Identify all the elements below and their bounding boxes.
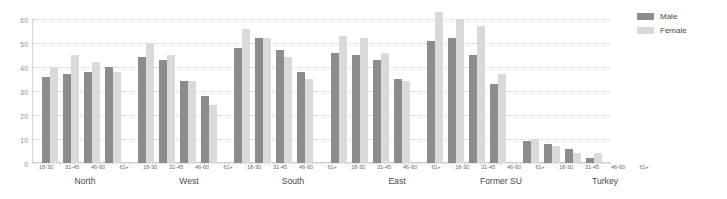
bar-female — [284, 57, 292, 163]
bar-female — [381, 53, 389, 163]
bar-male — [159, 60, 167, 163]
x-age-label-row: 18-3031-4546-6061+ — [553, 164, 657, 170]
x-age-label: 61+ — [530, 164, 551, 170]
bar-female — [477, 26, 485, 163]
age-group-bars — [352, 19, 368, 163]
bar-male — [276, 50, 284, 163]
x-age-label: 61+ — [426, 164, 447, 170]
bar-female — [92, 62, 100, 163]
age-group-bars — [394, 19, 410, 163]
x-age-label: 31-45 — [478, 164, 499, 170]
bar-female — [188, 81, 196, 163]
bar-female — [552, 146, 560, 163]
bar-male — [544, 144, 552, 163]
bar-female — [531, 139, 539, 163]
legend-swatch-icon — [637, 27, 654, 34]
age-group-bars — [490, 19, 506, 163]
bar-female — [305, 79, 313, 163]
bar-male — [84, 72, 92, 163]
x-age-label: 18-30 — [140, 164, 161, 170]
age-group-bars — [331, 19, 347, 163]
bar-male — [331, 53, 339, 163]
age-group-bars — [586, 19, 602, 163]
x-age-label: 18-30 — [244, 164, 265, 170]
bar-male — [234, 48, 242, 163]
bar-female — [339, 36, 347, 163]
bar-female — [573, 153, 581, 163]
age-group-bars — [523, 19, 539, 163]
x-region-label-group: 18-3031-4546-6061+South — [241, 164, 345, 199]
bar-female — [263, 38, 271, 163]
bar-male — [255, 38, 263, 163]
bar-male — [469, 55, 477, 163]
x-age-label: 61+ — [114, 164, 135, 170]
age-group-bars — [448, 19, 464, 163]
age-group-bars — [234, 19, 250, 163]
bar-female — [209, 105, 217, 163]
x-age-label: 61+ — [322, 164, 343, 170]
legend-label: Male — [660, 12, 677, 21]
legend-item-male[interactable]: Male — [637, 12, 687, 21]
region-group — [129, 19, 225, 163]
age-group-bars — [42, 19, 58, 163]
x-age-label: 46-60 — [504, 164, 525, 170]
x-age-label-row: 18-3031-4546-6061+ — [345, 164, 449, 170]
x-age-label: 31-45 — [62, 164, 83, 170]
x-age-label: 31-45 — [582, 164, 603, 170]
legend-item-female[interactable]: Female — [637, 26, 687, 35]
age-group-bars — [180, 19, 196, 163]
bar-female — [360, 38, 368, 163]
bar-male — [352, 55, 360, 163]
bar-male — [105, 67, 113, 163]
x-age-label-row: 18-3031-4546-6061+ — [137, 164, 241, 170]
bar-female — [242, 29, 250, 163]
x-region-name: East — [388, 176, 405, 186]
age-group-bars — [373, 19, 389, 163]
x-age-label: 31-45 — [374, 164, 395, 170]
y-tick-label: 20 — [20, 113, 28, 120]
bar-female — [435, 12, 443, 163]
x-age-label: 61+ — [634, 164, 655, 170]
age-group-bars — [84, 19, 100, 163]
x-region-label-group: 18-3031-4546-6061+Former SU — [449, 164, 553, 199]
bar-male — [180, 81, 188, 163]
age-group-bars — [255, 19, 271, 163]
x-age-label-row: 18-3031-4546-6061+ — [33, 164, 137, 170]
age-group-bars — [201, 19, 217, 163]
age-group-bars — [565, 19, 581, 163]
legend-swatch-icon — [637, 13, 654, 20]
y-tick-label: 40 — [20, 65, 28, 72]
bar-female — [71, 55, 79, 163]
x-age-label: 46-60 — [296, 164, 317, 170]
bar-male — [394, 79, 402, 163]
bar-male — [427, 41, 435, 163]
region-group — [418, 19, 514, 163]
bar-male — [565, 149, 573, 163]
age-group-bars — [159, 19, 175, 163]
bar-female — [50, 67, 58, 163]
x-age-label: 46-60 — [400, 164, 421, 170]
y-tick-label: 30 — [20, 89, 28, 96]
x-age-label-row: 18-3031-4546-6061+ — [449, 164, 553, 170]
age-group-bars — [105, 19, 121, 163]
x-age-label: 31-45 — [166, 164, 187, 170]
bar-male — [373, 60, 381, 163]
age-group-bars — [427, 19, 443, 163]
x-age-label: 46-60 — [608, 164, 629, 170]
age-group-bars — [63, 19, 79, 163]
bar-female — [167, 55, 175, 163]
x-region-name: Former SU — [480, 176, 522, 186]
age-group-bars — [297, 19, 313, 163]
x-axis-labels: 18-3031-4546-6061+North18-3031-4546-6061… — [33, 164, 611, 199]
bar-female — [113, 72, 121, 163]
bar-female — [594, 153, 602, 163]
bar-female — [146, 43, 154, 163]
age-group-bars — [276, 19, 292, 163]
bar-groups — [33, 19, 611, 163]
age-group-bars — [138, 19, 154, 163]
bar-female — [402, 81, 410, 163]
x-age-label: 18-30 — [452, 164, 473, 170]
grouped-bar-chart: 0102030405060 18-3031-4546-6061+North18-… — [0, 0, 727, 199]
plot-area: 0102030405060 — [33, 19, 611, 163]
x-region-label-group: 18-3031-4546-6061+West — [137, 164, 241, 199]
